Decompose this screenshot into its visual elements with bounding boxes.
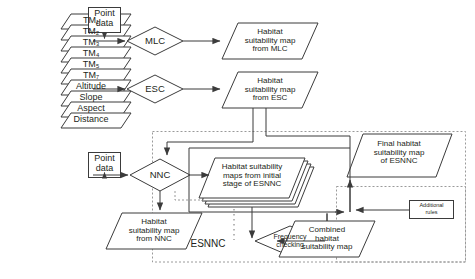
nnc-diamond	[130, 159, 190, 191]
nnc-output-shape	[106, 213, 202, 249]
final-output-shape	[347, 134, 452, 177]
additional-rules-box	[410, 201, 454, 219]
combined-output-shape	[279, 221, 375, 257]
mlc-output-shape	[222, 23, 318, 59]
mlc-diamond	[127, 27, 183, 55]
point-data-box-top	[89, 8, 121, 33]
esc-output-shape	[222, 72, 318, 108]
esc-diamond	[127, 75, 183, 103]
flowchart-svg	[0, 0, 475, 279]
flowchart-canvas: TM₁ TM₂ TM₃ TM₄ TM₅ TM₇ Altitude Slope A…	[0, 0, 475, 279]
initial-stage-maps-stack	[199, 158, 314, 207]
